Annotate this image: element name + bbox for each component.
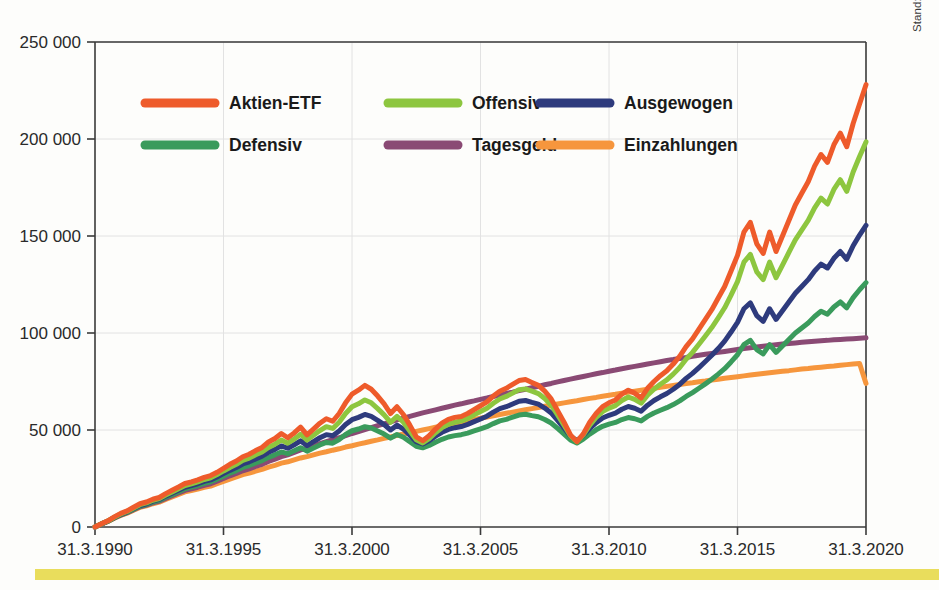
x-tick-label: 31.3.2020 (828, 540, 904, 559)
legend-label: Defensiv (229, 135, 302, 155)
y-tick-label: 100 000 (20, 324, 81, 343)
x-tick-label: 31.3.2015 (700, 540, 776, 559)
accent-bar (35, 569, 939, 580)
y-tick-label: 0 (72, 518, 81, 537)
y-axis: 050 000100 000150 000200 000250 000 (20, 33, 95, 537)
legend-item-offensiv[interactable]: Offensiv (388, 93, 542, 113)
chart-figure: 050 000100 000150 000200 000250 00031.3.… (0, 0, 939, 590)
legend-label: Einzahlungen (624, 135, 738, 155)
y-tick-label: 200 000 (20, 130, 81, 149)
x-tick-label: 31.3.1995 (186, 540, 262, 559)
y-tick-label: 250 000 (20, 33, 81, 52)
x-tick-label: 31.3.2005 (443, 540, 519, 559)
chart-legend: Aktien-ETFOffensivAusgewogenDefensivTage… (145, 93, 738, 155)
y-tick-label: 50 000 (29, 421, 81, 440)
legend-item-tagesgeld[interactable]: Tagesgeld (388, 135, 557, 155)
x-tick-label: 31.3.1990 (57, 540, 133, 559)
legend-item-aktien-etf[interactable]: Aktien-ETF (145, 93, 322, 113)
legend-label: Offensiv (472, 93, 542, 113)
legend-item-einzahlungen[interactable]: Einzahlungen (540, 135, 738, 155)
x-axis: 31.3.199031.3.199531.3.200031.3.200531.3… (57, 527, 904, 559)
x-tick-label: 31.3.2000 (314, 540, 390, 559)
line-chart: 050 000100 000150 000200 000250 00031.3.… (0, 0, 939, 590)
x-tick-label: 31.3.2010 (571, 540, 647, 559)
legend-item-ausgewogen[interactable]: Ausgewogen (540, 93, 733, 113)
source-note: Stand: 31. März 2020, Quellen: Refinitiv… (911, 0, 923, 32)
legend-label: Aktien-ETF (229, 93, 322, 113)
gridlines (95, 42, 866, 527)
y-tick-label: 150 000 (20, 227, 81, 246)
legend-label: Ausgewogen (624, 93, 733, 113)
